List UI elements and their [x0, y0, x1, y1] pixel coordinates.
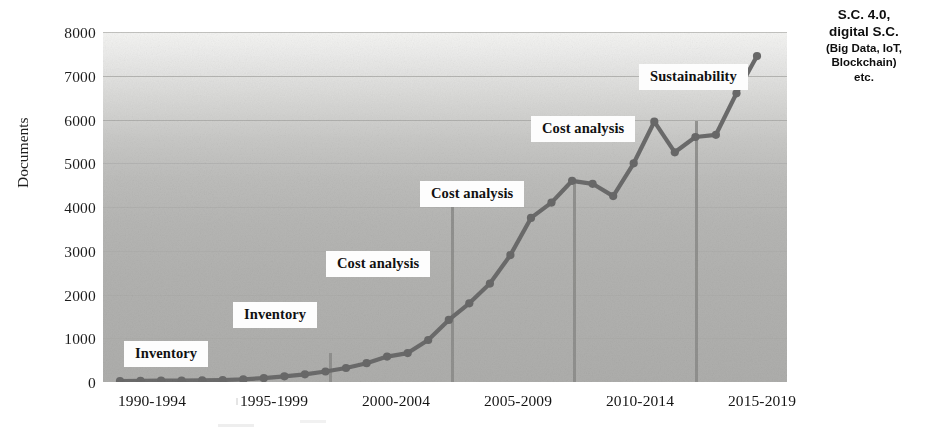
x-tick-2005-2009: 2005-2009	[484, 392, 552, 410]
data-point-marker	[321, 367, 329, 375]
annotation-cost-analysis-1: Cost analysis	[326, 251, 430, 277]
x-tick-2000-2004: 2000-2004	[362, 392, 430, 410]
scan-speck-3	[300, 420, 326, 423]
scan-speck-1	[236, 398, 238, 405]
side-note-line-5: etc.	[800, 70, 928, 85]
side-note-line-1: S.C. 4.0,	[800, 6, 928, 23]
y-axis-label: Documents	[14, 117, 32, 188]
data-point-marker	[691, 133, 699, 141]
y-tick-2000: 2000	[38, 287, 96, 305]
data-point-marker	[589, 180, 597, 188]
data-point-marker	[568, 177, 576, 185]
data-point-marker	[650, 118, 658, 126]
annotation-inventory-2: Inventory	[233, 302, 317, 328]
data-point-marker	[486, 280, 494, 288]
data-point-marker	[178, 376, 186, 382]
y-tick-4000: 4000	[38, 199, 96, 217]
data-point-marker	[445, 316, 453, 324]
data-point-marker	[404, 349, 412, 357]
data-point-marker	[157, 377, 165, 382]
y-tick-5000: 5000	[38, 155, 96, 173]
x-tick-2015-2019: 2015-2019	[728, 392, 796, 410]
annotation-inventory-1: Inventory	[124, 341, 208, 367]
data-point-marker	[219, 376, 227, 382]
data-point-marker	[753, 52, 761, 60]
y-tick-3000: 3000	[38, 243, 96, 261]
x-tick-1995-1999: 1995-1999	[240, 392, 308, 410]
side-note-line-4: Blockchain)	[800, 55, 928, 70]
data-point-marker	[383, 353, 391, 361]
data-point-marker	[630, 159, 638, 167]
data-point-marker	[280, 372, 288, 380]
data-point-marker	[363, 359, 371, 367]
x-tick-2010-2014: 2010-2014	[606, 392, 674, 410]
data-point-marker	[342, 364, 350, 372]
y-axis-ticks: 8000 7000 6000 5000 4000 3000 2000 1000 …	[34, 0, 96, 442]
data-point-marker	[547, 199, 555, 207]
data-point-marker	[506, 251, 514, 259]
chart-root: Documents 8000 7000 6000 5000 4000 3000 …	[0, 0, 934, 442]
y-tick-8000: 8000	[38, 24, 96, 42]
data-point-marker	[712, 131, 720, 139]
scan-speck-2	[218, 424, 254, 427]
y-tick-6000: 6000	[38, 112, 96, 130]
y-tick-1000: 1000	[38, 330, 96, 348]
annotation-cost-analysis-3: Cost analysis	[531, 116, 635, 142]
y-tick-0: 0	[38, 374, 96, 392]
data-point-marker	[301, 370, 309, 378]
data-point-marker	[136, 377, 144, 382]
side-note-line-2: digital S.C.	[800, 23, 928, 40]
data-point-marker	[465, 299, 473, 307]
data-point-marker	[198, 376, 206, 382]
data-point-marker	[609, 192, 617, 200]
side-note-line-3: (Big Data, IoT,	[800, 41, 928, 56]
side-note-sc40: S.C. 4.0, digital S.C. (Big Data, IoT, B…	[800, 6, 928, 85]
x-tick-1990-1994: 1990-1994	[118, 392, 186, 410]
data-point-marker	[424, 336, 432, 344]
annotation-sustainability: Sustainability	[639, 64, 748, 90]
data-point-marker	[671, 148, 679, 156]
data-point-marker	[732, 89, 740, 97]
y-tick-7000: 7000	[38, 68, 96, 86]
data-point-marker	[239, 375, 247, 382]
annotation-cost-analysis-2: Cost analysis	[420, 181, 524, 207]
data-point-marker	[260, 374, 268, 382]
data-point-marker	[527, 214, 535, 222]
data-point-marker	[116, 377, 124, 382]
